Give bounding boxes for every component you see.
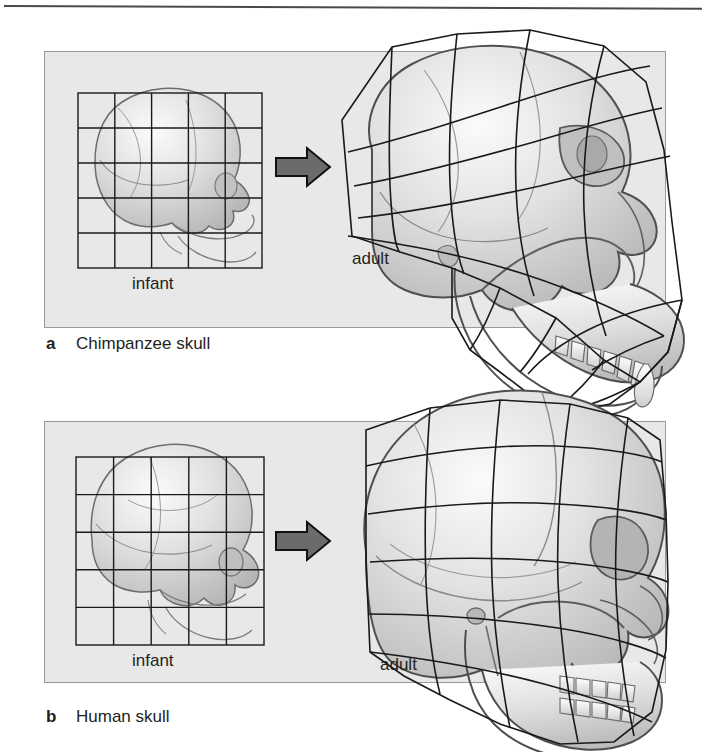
label-adult-a: adult — [352, 249, 389, 269]
caption-letter-a: a — [46, 334, 55, 354]
caption-text-a: Chimpanzee skull — [76, 334, 210, 354]
label-infant-b: infant — [132, 651, 174, 671]
panel-b-human — [44, 421, 666, 683]
label-infant-a: infant — [132, 274, 174, 294]
caption-letter-b: b — [46, 707, 56, 727]
top-rule-divider — [4, 5, 702, 10]
label-adult-b: adult — [380, 655, 417, 675]
caption-text-b: Human skull — [76, 707, 170, 727]
figure-root: infant adult infant adult a Chimpanzee s… — [0, 0, 706, 752]
